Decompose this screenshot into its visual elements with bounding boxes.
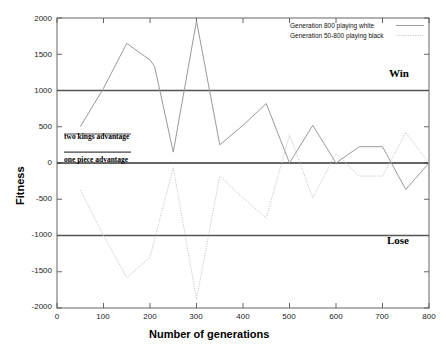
annotation-one-piece-advantage: one piece advantage	[64, 155, 128, 164]
ytick-label: -2000	[20, 302, 52, 311]
ytick-label: 1500	[20, 50, 52, 59]
xtick-label: 500	[275, 312, 303, 321]
ytick-label: 500	[20, 122, 52, 131]
ytick-label: -1500	[20, 266, 52, 275]
ytick-label: 2000	[20, 14, 52, 23]
annotation-two-kings-advantage: two kings advantage	[64, 132, 129, 141]
x-axis-title: Number of generations	[149, 328, 269, 340]
xtick-label: 700	[368, 312, 396, 321]
plot-canvas	[0, 0, 446, 352]
ytick-label: -1000	[20, 230, 52, 239]
data-series	[80, 21, 429, 299]
region-label-win: Win	[389, 67, 409, 79]
fitness-vs-generations-chart: 2000 1500 1000 500 0 -500 -1000 -1500 -2…	[0, 0, 446, 352]
xtick-label: 0	[43, 312, 71, 321]
y-axis-title: Fitness	[14, 166, 26, 205]
region-label-lose: Lose	[387, 234, 409, 246]
ytick-label: 1000	[20, 86, 52, 95]
xtick-label: 100	[89, 312, 117, 321]
legend-entry-white: Generation 800 playing white	[290, 22, 374, 30]
xtick-label: 300	[182, 312, 210, 321]
xtick-label: 200	[136, 312, 164, 321]
legend-entry-black: Generation 50-800 playing black	[290, 32, 384, 40]
xtick-label: 600	[322, 312, 350, 321]
xtick-label: 800	[415, 312, 443, 321]
legend-label: Generation 50-800 playing black	[290, 32, 384, 40]
legend-label: Generation 800 playing white	[290, 22, 374, 30]
legend-line-samples	[396, 26, 424, 36]
xtick-label: 400	[229, 312, 257, 321]
